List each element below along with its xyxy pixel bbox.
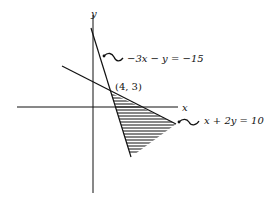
line-shallow (62, 66, 176, 124)
pointer-arrow-icon (179, 119, 199, 125)
pointer-arrow-icon (104, 53, 123, 60)
intersection-label: (4, 3) (115, 81, 142, 92)
x-axis-label: x (182, 102, 188, 113)
line-steep (91, 28, 131, 157)
pointer-dot-icon (103, 55, 106, 58)
pointer-dot-icon (178, 121, 181, 124)
shaded-region (100, 95, 190, 152)
equation-steep: −3x − y = −15 (127, 53, 204, 64)
y-axis-label: y (90, 8, 97, 19)
graph-canvas: y x −3x − y = −15 x + 2y = 10 (4, 3) (0, 0, 276, 201)
equation-shallow: x + 2y = 10 (204, 115, 264, 126)
